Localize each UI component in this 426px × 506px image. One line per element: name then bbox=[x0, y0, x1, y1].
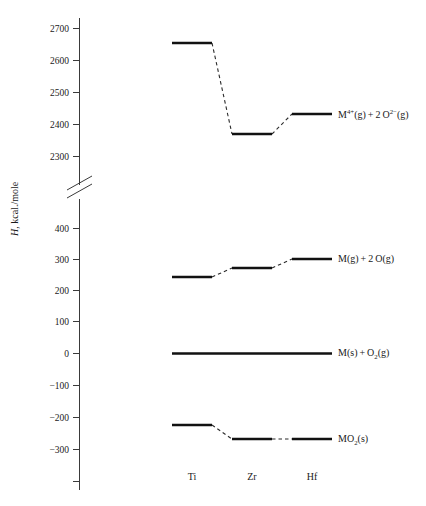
connector-ti-zr-bottom bbox=[212, 425, 232, 439]
y-tick-label-2700: 2700 bbox=[50, 24, 69, 34]
y-tick-label-neg300: −300 bbox=[49, 445, 69, 455]
connector-zr-hf-top bbox=[272, 114, 292, 134]
y-tick-label-2600: 2600 bbox=[50, 56, 69, 66]
y-axis-title: H, kcal./mole bbox=[9, 222, 20, 236]
x-category-label-zr: Zr bbox=[247, 471, 257, 482]
x-category-label-hf: Hf bbox=[307, 471, 318, 482]
y-tick-label-neg100: −100 bbox=[49, 381, 69, 391]
series-mo2s bbox=[172, 425, 332, 439]
series-label-mo2s: MO2(s) bbox=[338, 434, 368, 447]
x-category-label-ti: Ti bbox=[188, 471, 197, 482]
y-tick-label-100: 100 bbox=[55, 317, 70, 327]
connector-ti-zr-top bbox=[212, 43, 232, 134]
y-ticks-upper bbox=[73, 29, 80, 157]
connector-ti-zr-mid bbox=[212, 268, 232, 277]
y-tick-label-0: 0 bbox=[64, 349, 69, 359]
y-tick-label-200: 200 bbox=[55, 286, 70, 296]
y-ticks-lower bbox=[73, 229, 80, 482]
energy-level-diagram: 2700 2600 2500 2400 2300 400 300 200 100… bbox=[0, 0, 426, 506]
series-m4plus-2o2minus bbox=[172, 43, 332, 134]
y-tick-label-400: 400 bbox=[55, 224, 70, 234]
series-label-m4plus-2o2minus: M4+(g) + 2 O2−(g) bbox=[338, 109, 409, 120]
series-mg-2og bbox=[172, 259, 332, 277]
y-tick-label-300: 300 bbox=[55, 255, 70, 265]
connector-zr-hf-mid bbox=[272, 259, 292, 268]
y-tick-label-2500: 2500 bbox=[50, 88, 69, 98]
y-tick-label-neg200: −200 bbox=[49, 413, 69, 423]
y-tick-label-2300: 2300 bbox=[50, 152, 69, 162]
y-tick-label-2400: 2400 bbox=[50, 120, 69, 130]
series-label-mg-2og: M(g) + 2 O(g) bbox=[338, 254, 394, 264]
series-label-ms-o2g: M(s) + O2(g) bbox=[338, 348, 389, 361]
